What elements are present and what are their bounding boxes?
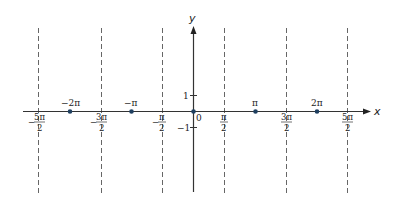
point-label-2pi: 2π (311, 98, 323, 108)
point-neg-pi (129, 109, 134, 114)
origin-label: 0 (196, 113, 202, 123)
asymptote-label-3pi-2: 3π 2 (281, 112, 292, 133)
asymptote-label-neg-3pi-2: − 3π 2 (90, 112, 107, 133)
asymptote-label-neg-5pi-2: − 5π 2 (28, 112, 45, 133)
svg-text:π: π (221, 112, 227, 122)
point-label-neg-2pi: −2π (61, 98, 80, 108)
asymptote-label-pi-2: π 2 (220, 112, 228, 133)
y-axis-label: y (188, 12, 196, 25)
svg-text:2: 2 (99, 123, 104, 133)
svg-text:2: 2 (221, 123, 226, 133)
svg-text:2: 2 (345, 123, 350, 133)
y-tick-label-1: 1 (183, 91, 189, 101)
svg-text:2: 2 (159, 123, 164, 133)
point-label-neg-pi: −π (124, 98, 138, 108)
svg-text:5π: 5π (34, 112, 45, 122)
asymptote-label-neg-pi-2: − π 2 (152, 112, 166, 133)
y-axis-arrow-icon (191, 26, 197, 34)
point-pi (253, 109, 258, 114)
point-2pi (315, 109, 320, 114)
point-neg-2pi (68, 109, 73, 114)
x-axis-label: x (373, 105, 381, 118)
svg-text:5π: 5π (342, 112, 353, 122)
svg-text:3π: 3π (96, 112, 107, 122)
svg-text:2: 2 (284, 123, 289, 133)
tan-asymptote-diagram: x y 1 −1 0 −2π −π π 2π − 5π 2 − 3π 2 − π… (0, 0, 398, 211)
svg-text:3π: 3π (281, 112, 292, 122)
point-origin (191, 109, 196, 114)
svg-text:π: π (159, 112, 165, 122)
x-axis-arrow-icon (363, 109, 371, 115)
svg-text:2: 2 (37, 123, 42, 133)
y-tick-label-neg1: −1 (177, 123, 190, 133)
point-label-pi: π (252, 98, 258, 108)
asymptote-label-5pi-2: 5π 2 (342, 112, 353, 133)
